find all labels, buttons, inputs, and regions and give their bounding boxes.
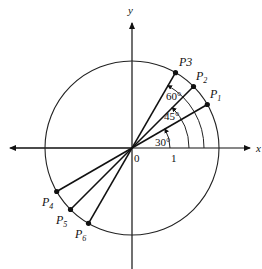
angle-45-label: 45°: [164, 110, 179, 122]
label-p1: P1: [209, 87, 221, 103]
angle-30-label: 30°: [155, 136, 170, 148]
origin-label: 0: [134, 152, 140, 164]
label-p2: P2: [195, 69, 207, 85]
point-p6: [86, 221, 91, 226]
x-axis-label: x: [255, 142, 261, 154]
point-p1: [205, 102, 210, 107]
label-p3: P3: [178, 55, 192, 69]
unit-circle-diagram: y x 0 1 30° 45° 60° P1 P2 P3 P4 P5 P6: [0, 0, 262, 269]
point-p5: [68, 207, 73, 212]
angle-60-label: 60°: [166, 90, 181, 102]
label-p4: P4: [41, 195, 53, 211]
label-p6: P6: [74, 227, 86, 243]
label-p5: P5: [55, 213, 67, 229]
point-p4: [54, 189, 59, 194]
point-p3: [173, 70, 178, 75]
point-p2: [191, 84, 196, 89]
unit-tick-label: 1: [171, 152, 177, 164]
y-axis-label: y: [127, 4, 133, 16]
